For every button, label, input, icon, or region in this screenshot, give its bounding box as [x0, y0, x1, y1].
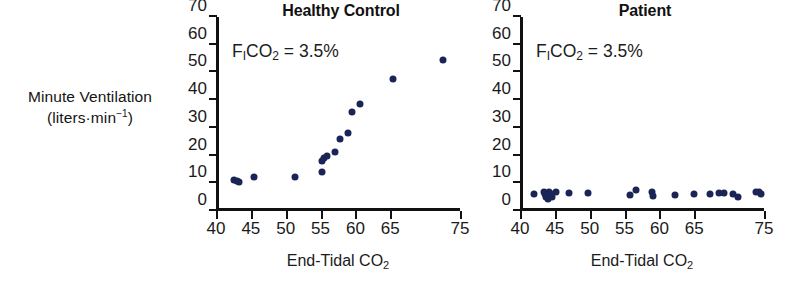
x-axis-tick [694, 211, 696, 219]
y-axis-tick-label: 60 [188, 24, 207, 44]
y-axis-tick [209, 98, 217, 100]
data-point [734, 193, 741, 200]
panel-patient: Patient FICO2 = 3.5% 0102030405060704045… [480, 0, 780, 286]
data-point [250, 174, 257, 181]
x-axis-caption-healthy-control: End-Tidal CO2 [216, 252, 460, 270]
x-axis-tick [216, 211, 218, 219]
y-axis-tick-label: 0 [502, 190, 511, 210]
panel-healthy-control: Healthy Control FICO2 = 3.5% 01020304050… [176, 0, 476, 286]
annotation-co: CO [246, 41, 272, 61]
x-axis-tick [321, 211, 323, 219]
x-axis-tick-label: 60 [650, 219, 669, 239]
y-axis-tick [513, 181, 521, 183]
x-axis-tick [764, 211, 766, 219]
y-axis-tick-label: 20 [492, 135, 511, 155]
data-point [721, 189, 728, 196]
annotation-f: F [232, 41, 243, 61]
y-axis-tick [513, 70, 521, 72]
y-axis-tick-label: 0 [198, 190, 207, 210]
x-axis-tick-label: 55 [615, 219, 634, 239]
y-axis-label: Minute Ventilation (liters·min−1) [0, 86, 180, 128]
y-axis-tick-label: 10 [188, 162, 207, 182]
data-point [671, 192, 678, 199]
y-axis-tick-label: 30 [188, 107, 207, 127]
x-axis-tick [590, 211, 592, 219]
y-axis-tick [209, 15, 217, 17]
y-axis-label-line2: (liters·min−1) [0, 107, 180, 128]
y-axis-tick [513, 98, 521, 100]
data-point [706, 191, 713, 198]
y-axis-tick [513, 43, 521, 45]
y-axis-tick [513, 15, 521, 17]
y-axis-units-exponent: −1 [116, 108, 128, 119]
data-point [584, 189, 591, 196]
y-axis-tick-label: 30 [492, 107, 511, 127]
y-axis-tick [513, 126, 521, 128]
x-axis-caption-sub: 2 [383, 259, 389, 271]
data-point [344, 129, 351, 136]
annotation-f: F [536, 41, 547, 61]
data-point [757, 191, 764, 198]
plot-area-patient: FICO2 = 3.5% 010203040506070404550556065… [520, 17, 764, 211]
annotation-fico2: FICO2 = 3.5% [536, 41, 643, 62]
data-point [337, 136, 344, 143]
x-axis-tick-label: 40 [207, 219, 226, 239]
x-axis-tick-label: 60 [346, 219, 365, 239]
x-axis-tick [251, 211, 253, 219]
x-axis-tick-label: 65 [381, 219, 400, 239]
x-axis-tick-label: 65 [685, 219, 704, 239]
x-axis-tick [286, 211, 288, 219]
data-point [331, 148, 338, 155]
data-point [291, 173, 298, 180]
y-axis-tick [209, 126, 217, 128]
x-axis-tick [555, 211, 557, 219]
y-axis-tick-label: 20 [188, 135, 207, 155]
data-point [565, 190, 572, 197]
x-axis-tick [520, 211, 522, 219]
x-axis-tick-label: 75 [451, 219, 470, 239]
data-point [348, 109, 355, 116]
data-point [627, 192, 634, 199]
data-point [553, 189, 560, 196]
y-axis-units-prefix: (liters·min [47, 109, 116, 126]
figure-root: Minute Ventilation (liters·min−1) Health… [0, 0, 793, 286]
data-point [318, 168, 325, 175]
data-point [691, 190, 698, 197]
x-axis-tick [625, 211, 627, 219]
x-axis-tick-label: 45 [545, 219, 564, 239]
x-axis-tick [460, 211, 462, 219]
annotation-sub-2: 2 [272, 49, 279, 63]
x-axis-tick-label: 50 [276, 219, 295, 239]
y-axis-tick [513, 154, 521, 156]
data-point [356, 100, 363, 107]
x-axis-tick [659, 211, 661, 219]
x-axis-caption-base: End-Tidal CO [591, 252, 687, 269]
x-axis-tick-label: 55 [311, 219, 330, 239]
y-axis-tick-label: 70 [492, 0, 511, 16]
y-axis-tick [209, 154, 217, 156]
annotation-sub-i: I [243, 49, 246, 63]
annotation-sub-2: 2 [576, 49, 583, 63]
x-axis-tick [355, 211, 357, 219]
y-axis-tick-label: 40 [492, 79, 511, 99]
x-axis-caption-sub: 2 [687, 259, 693, 271]
annotation-fico2: FICO2 = 3.5% [232, 41, 339, 62]
data-point [390, 76, 397, 83]
x-axis-tick-label: 45 [241, 219, 260, 239]
y-axis-label-line1: Minute Ventilation [28, 88, 152, 105]
y-axis-tick-label: 40 [188, 79, 207, 99]
annotation-co: CO [550, 41, 576, 61]
data-point [530, 190, 537, 197]
x-axis-tick-label: 40 [511, 219, 530, 239]
y-axis-tick-label: 10 [492, 162, 511, 182]
x-axis-caption-base: End-Tidal CO [287, 252, 383, 269]
y-axis-tick [209, 70, 217, 72]
data-point [650, 193, 657, 200]
y-axis-tick-label: 70 [188, 0, 207, 16]
y-axis-tick-label: 50 [188, 51, 207, 71]
annotation-value: = 3.5% [583, 41, 643, 61]
data-point [633, 186, 640, 193]
x-axis-caption-patient: End-Tidal CO2 [520, 252, 764, 270]
y-axis-units-suffix: ) [128, 109, 133, 126]
annotation-value: = 3.5% [279, 41, 339, 61]
